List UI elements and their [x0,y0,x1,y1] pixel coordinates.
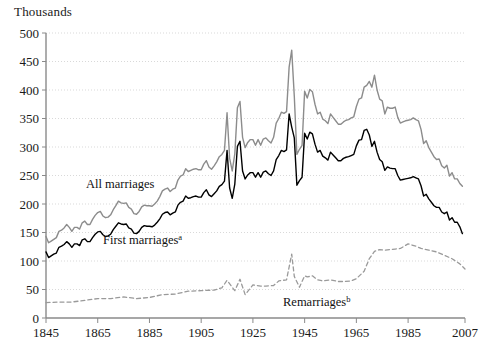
x-tick-label: 1965 [343,325,369,340]
y-tick-label: 150 [20,225,40,240]
axis-lines-group [46,33,465,318]
y-tick-label: 400 [20,83,40,98]
series-annotation: All marriages [86,177,155,191]
gridlines-group [46,33,465,290]
series-line-all-marriages [46,50,462,243]
y-tick-label: 500 [20,26,40,41]
x-tick-label: 1865 [85,325,111,340]
y-tick-label: 350 [20,111,40,126]
y-tick-label: 200 [20,197,40,212]
x-tick-label: 1945 [292,325,318,340]
x-tick-label: 1885 [136,325,162,340]
series-annotation: Remarriagesb [283,294,350,309]
x-tick-label: 1985 [395,325,421,340]
y-tick-label: 450 [20,54,40,69]
y-tick-label: 0 [33,311,40,326]
x-tick-label: 2007 [452,325,479,340]
y-tick-label: 100 [20,254,40,269]
series-annotation: First marriagesa [103,232,182,247]
chart-canvas: 050100150200250300350400450500 184518651… [0,0,484,348]
x-tick-label: 1925 [240,325,266,340]
y-tick-label: 300 [20,140,40,155]
x-tick-group: 184518651885190519251945196519852007 [33,318,479,340]
y-tick-label: 50 [26,282,39,297]
x-tick-label: 1845 [33,325,59,340]
x-tick-label: 1905 [188,325,214,340]
marriages-chart: Thousands 050100150200250300350400450500… [0,0,484,348]
series-line-remarriages [46,244,465,303]
y-tick-group: 050100150200250300350400450500 [20,26,47,326]
y-tick-label: 250 [20,168,40,183]
